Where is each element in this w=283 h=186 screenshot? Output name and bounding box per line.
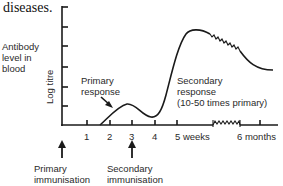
primary-response-label-line-1: Primary <box>81 76 114 87</box>
antibody-curve-late <box>240 51 273 70</box>
y-axis-label: Log titre <box>44 70 55 104</box>
x-axis <box>61 120 278 125</box>
secondary-response-label-line-3: (10-50 times primary) <box>177 98 267 109</box>
antibody-response-chart: diseases. <box>0 0 283 186</box>
primary-immunisation-arrow <box>58 140 66 158</box>
secondary-response-label-line-2: response <box>177 87 216 98</box>
y-outer-label-line-3: blood <box>2 64 25 75</box>
y-outer-label-line-1: Antibody <box>2 42 39 53</box>
x-tick-label-4: 4 <box>152 131 157 142</box>
x-tick-label-2: 2 <box>107 131 112 142</box>
curve-break <box>210 34 240 51</box>
y-axis <box>62 6 68 126</box>
primary-response-label-line-2: response <box>81 87 120 98</box>
secondary-response-label-line-1: Secondary <box>177 76 222 87</box>
primary-immunisation-label-line-1: Primary <box>34 164 67 175</box>
secondary-immunisation-label-line-1: Secondary <box>107 164 152 175</box>
secondary-immunisation-label-line-2: immunisation <box>107 175 163 186</box>
primary-response-arrow <box>101 97 113 108</box>
x-tick-label-1: 1 <box>84 131 89 142</box>
x-tick-label-5-weeks: 5 weeks <box>175 131 210 142</box>
chart-plot <box>0 0 283 186</box>
x-axis-break <box>213 121 240 125</box>
x-tick-label-6-months: 6 months <box>237 131 276 142</box>
x-tick-label-3: 3 <box>129 131 134 142</box>
primary-immunisation-label-line-2: immunisation <box>34 175 90 186</box>
secondary-immunisation-arrow <box>128 140 136 158</box>
y-outer-label-line-2: level in <box>2 53 32 64</box>
